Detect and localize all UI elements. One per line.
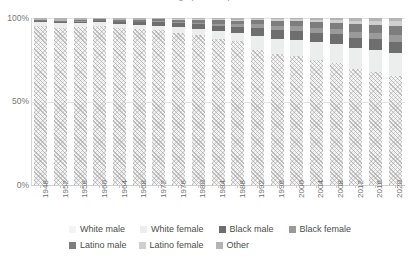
x-tick-label: 2012 xyxy=(356,180,365,198)
legend-item-latino-female[interactable]: Latino female xyxy=(139,240,204,250)
bar-segment-white-male-1988[interactable] xyxy=(231,41,244,185)
bar-segment-black-female-2020[interactable] xyxy=(389,35,402,42)
bar-segment-white-female-2004[interactable] xyxy=(310,42,323,59)
bar-segment-white-male-2004[interactable] xyxy=(310,60,323,185)
x-tick-2004: 2004 xyxy=(310,185,323,219)
bar-segment-black-male-1992[interactable] xyxy=(251,28,264,37)
bar-segment-black-male-2008[interactable] xyxy=(330,34,343,44)
bar-segment-white-male-2020[interactable] xyxy=(389,76,402,185)
bar-segment-black-male-2016[interactable] xyxy=(369,39,382,50)
bar-segment-white-female-2016[interactable] xyxy=(369,50,382,72)
legend-item-latino-male[interactable]: Latino male xyxy=(69,240,127,250)
legend-swatch-icon xyxy=(219,226,226,233)
x-tick-2012: 2012 xyxy=(349,185,362,219)
x-tick-1956: 1956 xyxy=(74,185,87,219)
bar-2016[interactable] xyxy=(369,18,382,185)
legend-label: Latino female xyxy=(150,240,204,250)
legend-swatch-icon xyxy=(69,242,76,249)
legend-label: Other xyxy=(227,240,250,250)
bar-1972[interactable] xyxy=(152,18,165,185)
bar-1948[interactable] xyxy=(34,18,47,185)
bar-1992[interactable] xyxy=(251,18,264,185)
bar-2008[interactable] xyxy=(330,18,343,185)
bar-1980[interactable] xyxy=(192,18,205,185)
bar-segment-latino-male-2012[interactable] xyxy=(349,24,362,31)
bar-1956[interactable] xyxy=(74,18,87,185)
bar-segment-latino-male-2016[interactable] xyxy=(369,25,382,33)
bar-1952[interactable] xyxy=(54,18,67,185)
x-tick-label: 1996 xyxy=(277,180,286,198)
bar-2000[interactable] xyxy=(290,18,303,185)
x-tick-1976: 1976 xyxy=(172,185,185,219)
x-tick-label: 2004 xyxy=(316,180,325,198)
bar-segment-white-male-1972[interactable] xyxy=(152,30,165,185)
bar-segment-white-male-1976[interactable] xyxy=(172,33,185,185)
legend-item-black-male[interactable]: Black male xyxy=(219,224,274,234)
bar-2020[interactable] xyxy=(389,18,402,185)
legend-swatch-icon xyxy=(140,226,147,233)
bar-segment-black-male-2020[interactable] xyxy=(389,42,402,53)
bar-1988[interactable] xyxy=(231,18,244,185)
bar-segment-black-male-2004[interactable] xyxy=(310,33,323,43)
bar-segment-white-male-2012[interactable] xyxy=(349,69,362,185)
bar-segment-white-male-1960[interactable] xyxy=(93,26,106,185)
bar-segment-white-female-2008[interactable] xyxy=(330,44,343,63)
bar-segment-white-male-1948[interactable] xyxy=(34,26,47,185)
bar-1996[interactable] xyxy=(271,18,284,185)
bar-segment-white-male-1964[interactable] xyxy=(113,28,126,185)
bar-segment-white-female-1996[interactable] xyxy=(271,39,284,54)
bar-segment-white-male-2016[interactable] xyxy=(369,72,382,185)
bar-1984[interactable] xyxy=(212,18,225,185)
bar-segment-white-male-1952[interactable] xyxy=(54,28,67,185)
x-tick-label: 2008 xyxy=(336,180,345,198)
bar-segment-white-male-1992[interactable] xyxy=(251,50,264,185)
bar-segment-white-female-1988[interactable] xyxy=(231,33,244,42)
bar-segment-white-male-1968[interactable] xyxy=(133,29,146,185)
legend-label: Black female xyxy=(300,224,352,234)
bar-segment-white-male-1956[interactable] xyxy=(74,27,87,185)
x-tick-label: 2016 xyxy=(375,180,384,198)
x-tick-label: 2000 xyxy=(297,180,306,198)
x-tick-label: 1976 xyxy=(179,180,188,198)
x-tick-1972: 1972 xyxy=(152,185,165,219)
y-tick-50: 50% xyxy=(1,97,29,106)
legend-row-1: White maleWhite femaleBlack maleBlack fe… xyxy=(31,222,413,236)
bar-segment-white-male-1980[interactable] xyxy=(192,35,205,185)
bar-1964[interactable] xyxy=(113,18,126,185)
bar-segment-white-male-1984[interactable] xyxy=(212,39,225,185)
bar-2004[interactable] xyxy=(310,18,323,185)
bar-1960[interactable] xyxy=(93,18,106,185)
x-tick-label: 1956 xyxy=(80,180,89,198)
bar-segment-latino-male-2020[interactable] xyxy=(389,26,402,34)
bar-segment-black-male-1996[interactable] xyxy=(271,30,284,39)
x-tick-2008: 2008 xyxy=(330,185,343,219)
x-tick-label: 1968 xyxy=(139,180,148,198)
bar-segment-white-female-1984[interactable] xyxy=(212,31,225,39)
legend-item-white-female[interactable]: White female xyxy=(140,224,204,234)
legend-row-2: Latino maleLatino femaleOther xyxy=(31,238,413,252)
stacked-bar-chart: Demographic composition 100% 50% 0% 1948… xyxy=(0,0,413,262)
x-tick-label: 1992 xyxy=(257,180,266,198)
bar-1976[interactable] xyxy=(172,18,185,185)
x-tick-label: 1972 xyxy=(159,180,168,198)
bar-segment-black-male-2012[interactable] xyxy=(349,38,362,49)
bar-segment-white-male-2008[interactable] xyxy=(330,63,343,185)
x-tick-1988: 1988 xyxy=(231,185,244,219)
bar-segment-white-male-2000[interactable] xyxy=(290,56,303,185)
legend-item-black-female[interactable]: Black female xyxy=(289,224,352,234)
bar-segment-black-male-2000[interactable] xyxy=(290,31,303,40)
bar-segment-white-female-1992[interactable] xyxy=(251,36,264,50)
bar-segment-white-female-2020[interactable] xyxy=(389,53,402,77)
bar-segment-white-female-2000[interactable] xyxy=(290,40,303,56)
x-tick-1964: 1964 xyxy=(113,185,126,219)
bar-segment-white-male-1996[interactable] xyxy=(271,54,284,185)
bar-2012[interactable] xyxy=(349,18,362,185)
plot-area xyxy=(31,18,405,185)
bar-segment-white-female-2012[interactable] xyxy=(349,48,362,69)
legend-label: White male xyxy=(80,224,125,234)
legend-item-white-male[interactable]: White male xyxy=(69,224,125,234)
x-tick-1992: 1992 xyxy=(251,185,264,219)
bar-1968[interactable] xyxy=(133,18,146,185)
x-tick-label: 2020 xyxy=(395,180,404,198)
legend-item-other[interactable]: Other xyxy=(216,240,250,250)
